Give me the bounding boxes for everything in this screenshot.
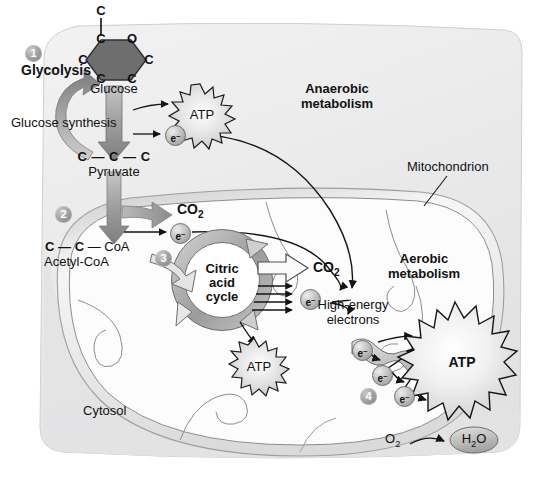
electron-charge: – xyxy=(363,346,367,355)
anaerobic-label-line2: metabolism xyxy=(301,97,373,112)
atp-label-chain: ATP xyxy=(449,355,476,371)
pyruvate-formula: C — C — C xyxy=(77,150,150,165)
cytosol-label: Cytosol xyxy=(83,404,126,419)
glucose-label: Glucose xyxy=(90,82,138,97)
acetyl-coa-label: Acetyl-CoA xyxy=(44,255,109,270)
atp-label-cycle: ATP xyxy=(247,360,271,375)
high-energy-electrons-line1: High-energy xyxy=(318,298,389,313)
citric-acid-cycle-line3: cycle xyxy=(206,290,239,305)
glucose-synthesis-label: Glucose synthesis xyxy=(11,116,117,131)
water-o: O xyxy=(476,431,486,446)
aerobic-label-line1: Aerobic xyxy=(400,252,448,267)
water-label: H2O xyxy=(462,432,487,449)
step-1-marker: 1 xyxy=(25,45,42,62)
electron-marker-step2: e– xyxy=(170,223,191,244)
electron-marker-chain-1: e– xyxy=(352,340,373,361)
co2-label-step2: CO2 xyxy=(177,202,204,220)
co2-label-cycle: CO2 xyxy=(313,260,340,278)
oxygen-subscript: 2 xyxy=(395,439,400,449)
anaerobic-label-line1: Anaerobic xyxy=(305,82,369,97)
acetyl-c1: C xyxy=(45,239,54,254)
step-4-marker: 4 xyxy=(360,388,377,405)
co2-subscript: 2 xyxy=(334,267,340,278)
water-h: H xyxy=(462,431,471,446)
aerobic-label-line2: metabolism xyxy=(388,267,460,282)
glucose-ring-c2-label: C xyxy=(144,53,153,68)
cell-respiration-diagram: C C O C C C C Glucose 1 Glycolysis Gluco… xyxy=(0,0,545,478)
pyruvate-label: Pyruvate xyxy=(88,165,139,180)
step-2-marker: 2 xyxy=(55,206,72,223)
high-energy-electrons-line2: electrons xyxy=(327,313,380,328)
electron-charge: – xyxy=(181,229,185,238)
mitochondrion-label: Mitochondrion xyxy=(407,160,489,175)
electron-charge: – xyxy=(383,371,387,380)
atp-label-glycolysis: ATP xyxy=(190,108,214,123)
glycolysis-label: Glycolysis xyxy=(21,63,91,79)
acetyl-c2: C xyxy=(75,239,84,254)
electron-marker-glycolysis: e– xyxy=(165,125,186,146)
oxygen-label: O2 xyxy=(385,432,400,449)
acetyl-coa-formula: C — C — CoA xyxy=(45,240,130,255)
electron-marker-chain-2: e– xyxy=(372,365,393,386)
co2-text: CO xyxy=(313,259,334,275)
electron-charge: – xyxy=(176,131,180,140)
glucose-ring-o-label: O xyxy=(127,32,137,47)
glucose-top-carbon-label: C xyxy=(96,4,105,19)
co2-text: CO xyxy=(177,201,198,217)
oxygen-text: O xyxy=(385,431,395,446)
glucose-ring-c1-label: C xyxy=(96,32,105,47)
electron-charge: – xyxy=(311,295,315,304)
step-3-marker: 3 xyxy=(155,250,172,267)
electron-charge: – xyxy=(405,392,409,401)
electron-marker-chain-3: e– xyxy=(394,386,415,407)
acetyl-coa-group: CoA xyxy=(104,239,129,254)
co2-subscript: 2 xyxy=(198,209,204,220)
